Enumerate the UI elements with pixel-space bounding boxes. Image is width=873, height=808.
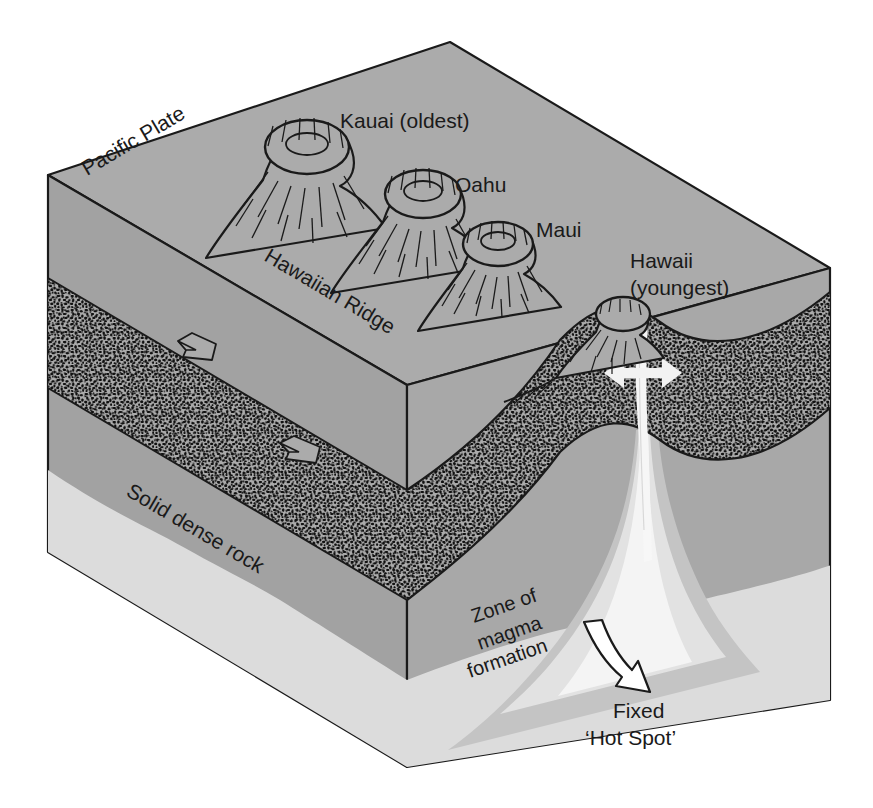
hawaii-hotspot-block-diagram: Pacific Plate Kauai (oldest) Oahu Maui H… — [0, 0, 873, 808]
label-kauai: Kauai (oldest) — [340, 109, 470, 132]
label-hawaii-line2: (youngest) — [630, 276, 729, 299]
label-hotspot-line1: Fixed — [613, 699, 664, 722]
label-oahu: Oahu — [455, 173, 506, 196]
label-hawaii-line1: Hawaii — [630, 249, 693, 272]
diagram-canvas: Pacific Plate Kauai (oldest) Oahu Maui H… — [0, 0, 873, 808]
label-maui: Maui — [536, 218, 582, 241]
label-hotspot-line2: ‘Hot Spot’ — [585, 726, 676, 749]
